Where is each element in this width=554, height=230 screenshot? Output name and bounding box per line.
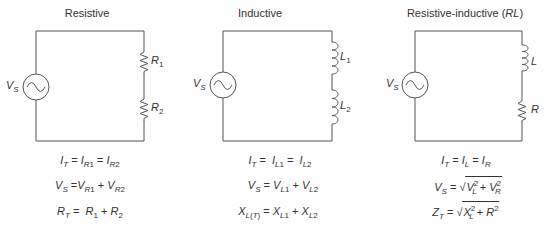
sine-wave-icon: [27, 83, 45, 92]
equation-impedance: ZT = √X2L + R2: [432, 201, 499, 223]
inductor-l2-icon: [332, 90, 338, 124]
label-l1: L1: [340, 50, 351, 65]
resistor-r-icon: [518, 99, 526, 123]
rl-circuit: [402, 31, 528, 141]
wire-top: [36, 31, 144, 74]
title-inductive: Inductive: [238, 7, 282, 19]
wire-top: [223, 31, 332, 72]
label-l2: L2: [340, 99, 351, 114]
title-resistive: Resistive: [65, 7, 110, 19]
wire-top: [415, 31, 522, 72]
label-l: L: [531, 55, 537, 67]
equation-resistance: RT = R1 + R2: [57, 205, 123, 220]
wire-bottom: [415, 98, 522, 141]
source-label-vs: VS: [386, 77, 399, 92]
wire-bottom: [223, 98, 332, 141]
inductor-l1-icon: [332, 42, 338, 74]
inductor-l-icon: [522, 45, 528, 71]
source-label-vs: VS: [193, 77, 206, 92]
resistor-r2-icon: [140, 97, 148, 121]
equation-current: IT = IL1 = IL2: [248, 154, 311, 169]
sine-wave-icon: [406, 81, 424, 90]
source-label-vs: VS: [6, 79, 19, 94]
equation-reactance: XL(T) = XL1 + XL2: [238, 205, 318, 220]
wire-bottom: [36, 100, 144, 141]
label-r2: R2: [151, 101, 163, 116]
inductive-circuit: [210, 31, 338, 141]
sine-wave-icon: [214, 81, 232, 90]
label-r: R: [531, 103, 539, 115]
equation-current: IT = IR1 = IR2: [60, 154, 120, 169]
title-rl: Resistive-inductive (RL): [407, 7, 523, 19]
equation-current: IT = IL = IR: [441, 154, 490, 169]
equation-voltage: VS =VR1 + VR2: [55, 179, 125, 194]
resistive-circuit: [23, 31, 148, 141]
label-r1: R1: [151, 54, 163, 69]
resistor-r1-icon: [140, 50, 148, 74]
equation-voltage: VS = √V2L + V2R: [434, 176, 502, 198]
equation-voltage: VS = VL1 + VL2: [248, 179, 318, 194]
